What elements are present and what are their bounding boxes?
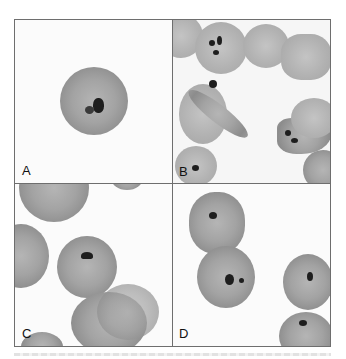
parasite-inclusion: [225, 274, 234, 285]
panel-divider-horizontal: [15, 183, 330, 184]
panel-b: B: [173, 20, 330, 183]
panel-label-a: A: [22, 164, 31, 177]
parasite-inclusion: [209, 40, 215, 46]
parasite-inclusion: [217, 36, 222, 45]
parasite-inclusion: [192, 165, 199, 171]
red-blood-cell: [303, 150, 330, 183]
parasite-inclusion: [291, 138, 298, 143]
parasite-inclusion: [209, 80, 217, 88]
parasite-inclusion: [93, 98, 104, 113]
parasite-inclusion: [307, 272, 313, 281]
parasite-inclusion: [81, 252, 93, 259]
red-blood-cell: [279, 312, 330, 346]
red-blood-cell: [19, 184, 89, 222]
panel-label-b: B: [179, 165, 188, 178]
parasite-inclusion: [299, 320, 307, 326]
caption-strip: [14, 353, 331, 356]
panel-a: A: [15, 20, 172, 183]
red-blood-cell: [291, 98, 330, 138]
parasite-inclusion: [239, 278, 244, 283]
red-blood-cell: [189, 192, 245, 254]
red-blood-cell: [111, 184, 143, 190]
red-blood-cell: [195, 22, 247, 74]
micrograph-figure: A B C: [14, 19, 331, 347]
parasite-inclusion: [209, 212, 217, 219]
red-blood-cell: [57, 236, 117, 298]
red-blood-cell: [97, 284, 159, 340]
parasite-inclusion: [285, 130, 291, 136]
panel-d: D: [173, 184, 330, 346]
parasite-inclusion: [85, 106, 94, 114]
red-blood-cell: [281, 34, 330, 80]
panel-c: C: [15, 184, 172, 346]
red-blood-cell: [283, 254, 330, 310]
panel-label-c: C: [22, 327, 31, 340]
parasite-inclusion: [213, 50, 219, 55]
red-blood-cell: [15, 224, 49, 288]
panel-label-d: D: [179, 327, 188, 340]
